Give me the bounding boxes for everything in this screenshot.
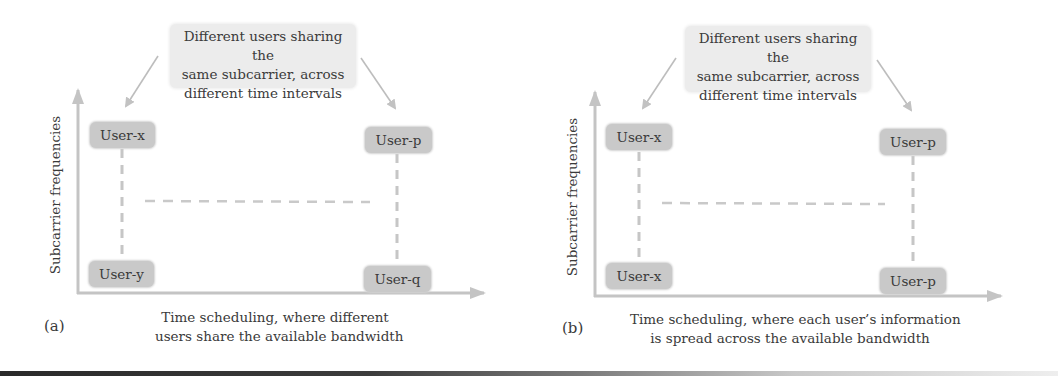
user-box-top-right: User-p: [365, 127, 432, 153]
arrow-icon: [877, 60, 911, 110]
caption-line: users share the available bandwidth: [155, 327, 395, 346]
ofdma-scheduling-figure: Different users sharing the same subcarr…: [0, 0, 1058, 376]
arrow-icon: [643, 58, 676, 108]
callout-note: Different users sharing the same subcarr…: [170, 24, 356, 88]
panel-label: (b): [562, 319, 583, 337]
user-box-top-left: User-x: [90, 122, 155, 148]
x-axis-caption: Time scheduling, where each user’s infor…: [630, 310, 950, 348]
dashed-connector-horizontal: [662, 203, 885, 204]
caption-line: is spread across the available bandwidth: [630, 329, 950, 348]
dashed-connector-horizontal: [145, 201, 370, 202]
caption-line: Time scheduling, where each user’s infor…: [630, 310, 950, 329]
callout-note: Different users sharing the same subcarr…: [685, 26, 871, 92]
panel-a-connectors: [122, 149, 397, 266]
callout-line: different time intervals: [691, 86, 865, 105]
caption-line: Time scheduling, where different: [155, 308, 395, 327]
callout-line: different time intervals: [176, 84, 350, 103]
user-box-bottom-left: User-y: [89, 261, 154, 287]
y-axis-label: Subcarrier frequencies: [46, 95, 64, 295]
y-axis-label: Subcarrier frequencies: [563, 97, 581, 297]
callout-line: same subcarrier, across: [176, 65, 350, 84]
panel-label: (a): [44, 317, 65, 335]
page-edge-divider: [0, 371, 1058, 376]
callout-line: Different users sharing the: [691, 29, 865, 67]
user-box-top-right: User-p: [880, 129, 946, 155]
user-box-top-left: User-x: [606, 124, 672, 150]
x-axis-caption: Time scheduling, where different users s…: [155, 308, 395, 346]
user-box-bottom-left: User-x: [606, 263, 672, 289]
user-box-bottom-right: User-p: [880, 268, 946, 294]
panel-b-connectors: [639, 152, 913, 268]
arrow-icon: [361, 58, 395, 108]
callout-line: same subcarrier, across: [691, 67, 865, 86]
arrow-icon: [126, 56, 158, 106]
user-box-bottom-right: User-q: [364, 266, 431, 292]
callout-line: Different users sharing the: [176, 27, 350, 65]
